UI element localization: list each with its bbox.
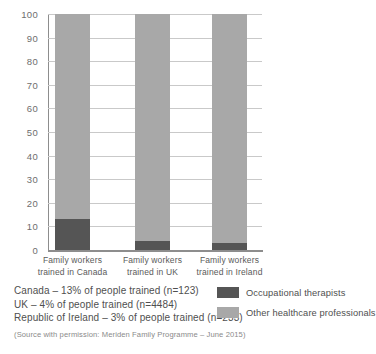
legend-swatch-light	[217, 307, 239, 318]
x-axis-line	[48, 250, 263, 252]
x-axis-category-labels: Family workerstrained in CanadaFamily wo…	[48, 255, 262, 281]
bar-3	[212, 14, 247, 250]
legend-item-occupational-therapists: Occupational therapists	[217, 287, 362, 298]
y-axis-tick: 80	[27, 56, 38, 67]
y-axis-tick: 70	[27, 79, 38, 90]
legend-item-other-healthcare-professionals: Other healthcare professionals	[217, 307, 362, 318]
y-axis-tick: 20	[27, 197, 38, 208]
y-axis-tick: 30	[27, 174, 38, 185]
plot-region: 1009080706050403020100 Family workerstra…	[0, 0, 366, 282]
legend-swatch-dark	[217, 287, 239, 298]
bar-2	[135, 14, 170, 250]
bar-segment-occupational-therapists	[55, 219, 90, 250]
legend-label: Other healthcare professionals	[246, 308, 376, 318]
legend-label: Occupational therapists	[246, 288, 345, 298]
bar-segment-other-healthcare-professionals	[55, 14, 90, 219]
y-axis-tick: 90	[27, 32, 38, 43]
bar-segment-occupational-therapists	[135, 241, 170, 250]
bar-segment-occupational-therapists	[212, 243, 247, 250]
x-axis-label-1: Family workerstrained in Canada	[27, 255, 119, 278]
bar-segment-other-healthcare-professionals	[212, 14, 247, 243]
y-axis-tick: 50	[27, 127, 38, 138]
plot-area	[48, 14, 262, 250]
y-axis-tick: 10	[27, 221, 38, 232]
note-line: Republic of Ireland – 3% of people train…	[14, 311, 214, 325]
notes-block: Canada – 13% of people trained (n=123) U…	[14, 284, 214, 325]
y-axis-tick: 40	[27, 150, 38, 161]
note-line: Canada – 13% of people trained (n=123)	[14, 284, 214, 298]
note-line: UK – 4% of people trained (n=4484)	[14, 298, 214, 312]
bar-1	[55, 14, 90, 250]
x-axis-label-3: Family workerstrained in Ireland	[184, 255, 276, 278]
chart-legend: Occupational therapists Other healthcare…	[217, 287, 362, 327]
y-axis-tick: 60	[27, 103, 38, 114]
bar-segment-other-healthcare-professionals	[135, 14, 170, 241]
y-axis-tick: 100	[21, 9, 38, 20]
y-axis-tick-labels: 1009080706050403020100	[0, 0, 44, 260]
source-caption: (Source with permission: Meriden Family …	[14, 330, 246, 339]
y-axis-tick: 0	[32, 245, 38, 256]
